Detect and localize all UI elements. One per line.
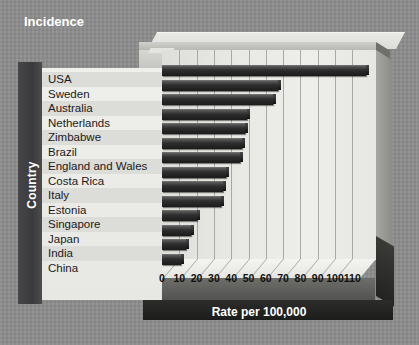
bar-end-cap [242,138,245,148]
category-label: Australia [42,101,162,116]
x-tick-label: 20 [191,272,203,284]
bar [162,196,221,207]
x-tick-label: 50 [243,272,255,284]
category-label: China [42,261,162,276]
x-tick-label: 40 [225,272,237,284]
bar-row [162,166,397,181]
incidence-bar-chart: Incidence Country USASwedenAustraliaNeth… [0,0,419,345]
bar-end-cap [181,254,184,264]
bar-end-cap [245,123,248,133]
x-tick-label: 60 [260,272,272,284]
chart-top-slab-front [139,42,376,50]
category-label: Estonia [42,203,162,218]
bar-row [162,137,397,152]
x-axis-label: Rate per 100,000 [143,305,375,319]
category-label: Singapore [42,217,162,232]
category-label: Netherlands [42,116,162,131]
x-axis-ticks: 0102030405060708090100110 [150,272,390,288]
bar [162,254,181,265]
category-label: Japan [42,232,162,247]
bar-row [162,180,397,195]
x-tick-label: 80 [295,272,307,284]
bar [162,123,245,134]
category-label: India [42,246,162,261]
bar [162,167,226,178]
bar-end-cap [278,80,281,90]
bar-series [162,64,397,264]
category-label: England and Wales [42,159,162,174]
bar-row [162,64,397,79]
bar-row [162,195,397,210]
bar-end-cap [223,181,226,191]
bar [162,65,366,76]
bar-row [162,151,397,166]
x-tick-label: 10 [173,272,185,284]
x-tick-label: 110 [344,272,361,284]
bar [162,181,223,192]
category-label: Zimbabwe [42,130,162,145]
bar [162,138,242,149]
bar-row [162,209,397,224]
x-tick-label: 30 [208,272,220,284]
bar-end-cap [186,239,189,249]
bar-row [162,253,397,268]
bar [162,239,186,250]
bar-end-cap [226,167,229,177]
bar-row [162,93,397,108]
y-axis-band: Country [18,62,42,304]
bar [162,152,240,163]
bar-end-cap [221,196,224,206]
bar [162,225,191,236]
category-label: Costa Rica [42,174,162,189]
x-tick-label: 70 [277,272,289,284]
x-tick-label: 100 [326,272,344,284]
bar-end-cap [273,94,276,104]
x-tick-label: 90 [312,272,324,284]
y-axis-label: Country [25,85,39,285]
chart-title: Incidence [24,14,84,29]
bar-end-cap [366,65,369,75]
x-tick-label: 0 [159,272,165,284]
bar-row [162,224,397,239]
bar [162,94,273,105]
bar-end-cap [191,225,194,235]
category-label: Brazil [42,145,162,160]
bar-row [162,79,397,94]
bar-row [162,108,397,123]
bar [162,210,197,221]
bar-end-cap [197,210,200,220]
category-label-list: USASwedenAustraliaNetherlandsZimbabweBra… [42,72,162,275]
category-label: Sweden [42,87,162,102]
bar [162,80,278,91]
category-label: USA [42,72,162,87]
bar-end-cap [240,152,243,162]
bar [162,109,247,120]
bar-row [162,122,397,137]
category-label: Italy [42,188,162,203]
bar-row [162,238,397,253]
bar-end-cap [247,109,250,119]
